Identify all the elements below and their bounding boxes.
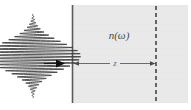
refractive-index-label: n(ω) <box>109 29 130 42</box>
figure-svg: n(ω) z <box>0 0 191 110</box>
figure-container: n(ω) z <box>0 0 191 110</box>
distance-label: z <box>112 58 117 68</box>
incident-wave-packet <box>0 14 81 98</box>
medium-texture <box>72 5 188 103</box>
